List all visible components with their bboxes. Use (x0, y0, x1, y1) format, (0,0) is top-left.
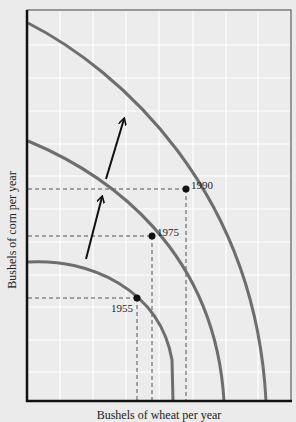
label-1975: 1975 (157, 226, 180, 238)
ppf-chart: 1990 1975 1955 Bushels of wheat per year… (0, 0, 296, 422)
point-1955 (134, 295, 141, 302)
y-axis-label: Bushels of corn per year (5, 171, 19, 288)
point-1990 (183, 186, 190, 193)
label-1955: 1955 (111, 302, 134, 314)
x-axis-label: Bushels of wheat per year (97, 408, 222, 422)
label-1990: 1990 (191, 179, 214, 191)
point-1975 (149, 233, 156, 240)
